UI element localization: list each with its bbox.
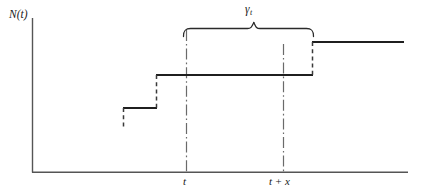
brace-left-half (184, 23, 254, 37)
gamma-brace (184, 23, 314, 37)
gamma-symbol: γ (245, 3, 250, 15)
gamma-annotation: γt (245, 4, 252, 17)
x-tick-label-t: t (183, 176, 186, 187)
x-tick-label-t-text: t (183, 175, 186, 187)
x-tick-label-t-plus-x: t + x (269, 176, 290, 187)
y-axis-label: N(t) (9, 9, 28, 21)
y-axis-label-text: N(t) (9, 8, 28, 20)
figure-canvas (0, 0, 421, 192)
gamma-subscript: t (250, 8, 252, 17)
marker-lines-group (187, 30, 284, 172)
brace-right-half (254, 23, 314, 37)
x-tick-label-t-plus-x-text: t + x (269, 175, 290, 187)
renewal-process-figure: N(t) γt t t + x (0, 0, 421, 192)
step-risers-group (124, 42, 313, 129)
step-function-group (123, 42, 404, 108)
